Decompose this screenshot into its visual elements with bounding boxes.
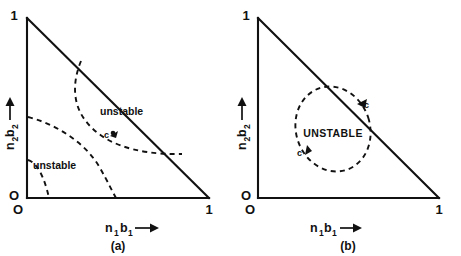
panel-b-hypotenuse	[258, 18, 439, 198]
panel-b-x-axis-title: n 1 b 1	[310, 221, 362, 238]
figure-canvas: 1 O O 1 unstable unstable c n 1 b	[0, 0, 461, 256]
panel-b-y-axis-b: b	[235, 129, 249, 137]
panel-a-y-axis-b: b	[3, 129, 17, 137]
panel-a-unstable-upper-label: unstable	[100, 105, 143, 117]
panel-b-x-axis-b: b	[324, 221, 332, 235]
panel-b-caption: (b)	[340, 239, 355, 253]
panel-b-y-axis-n: n	[235, 142, 249, 150]
panel-a-unstable-lower-label: unstable	[33, 159, 76, 171]
panel-b-c-marker-left-arrow-icon	[305, 145, 312, 155]
panel-a-x-axis-b: b	[120, 221, 128, 235]
panel-a-y-origin-tick: O	[9, 188, 19, 203]
panel-a-x-axis-n: n	[105, 221, 113, 235]
panel-b-y-origin-tick: O	[241, 188, 251, 203]
panel-b-y-axis-b-subscript: 2	[242, 124, 252, 129]
panel-b-x-axis-n: n	[310, 221, 318, 235]
panel-b-x-origin-tick: O	[245, 202, 255, 217]
panel-b-y-axis-title: n 2 b 2	[235, 97, 252, 150]
panel-a-x-max-tick: 1	[205, 202, 212, 217]
panel-b-x-axis-b-subscript: 1	[332, 228, 337, 238]
panel-a-y-axis-title: n 2 b 2	[3, 97, 20, 150]
figure-root: 1 O O 1 unstable unstable c n 1 b	[0, 0, 461, 256]
panel-a: 1 O O 1 unstable unstable c n 1 b	[3, 8, 213, 253]
panel-a-x-axis-title: n 1 b 1	[105, 221, 159, 238]
panel-b-c-marker-left-label: c	[297, 148, 302, 158]
panel-b-x-max-tick: 1	[435, 202, 442, 217]
panel-a-x-axis-b-subscript: 1	[128, 228, 133, 238]
panel-b-x-axis-arrow-icon	[353, 224, 362, 233]
panel-a-y-axis-n: n	[3, 142, 17, 150]
panel-a-x-origin-tick: O	[13, 202, 23, 217]
panel-a-y-axis-arrow-icon	[6, 97, 15, 106]
panel-a-y-axis-b-subscript: 2	[10, 124, 20, 129]
panel-a-c-marker-label: c	[104, 130, 109, 140]
panel-b-y-axis-arrow-icon	[238, 97, 247, 106]
panel-a-x-axis-arrow-icon	[150, 224, 159, 233]
panel-b-unstable-label: UNSTABLE	[303, 127, 363, 139]
panel-b-y-max-tick: 1	[242, 8, 249, 23]
panel-a-mid-unstable-boundary	[28, 117, 116, 198]
panel-a-caption: (a)	[111, 239, 126, 253]
panel-a-y-max-tick: 1	[10, 8, 17, 23]
panel-b: 1 O O 1 UNSTABLE c c n 1 b 1	[235, 8, 443, 253]
panel-a-x-axis-n-subscript: 1	[114, 228, 119, 238]
